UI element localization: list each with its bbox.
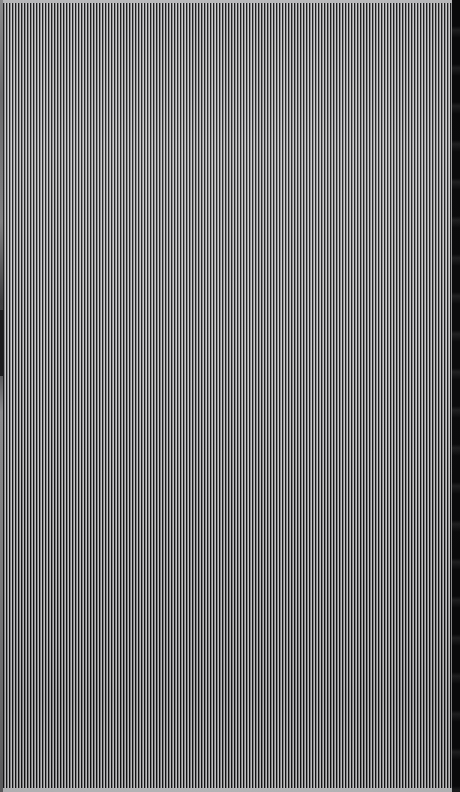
- vertical-stripe-pattern: [0, 0, 460, 792]
- right-edge-band: [452, 0, 460, 792]
- screenshot-canvas: Screenshot consisting entirely of fine v…: [0, 0, 460, 792]
- left-gutter-rail[interactable]: [0, 0, 3, 792]
- right-edge-banding-overlay: [452, 0, 460, 792]
- left-gutter-notch[interactable]: [0, 310, 4, 376]
